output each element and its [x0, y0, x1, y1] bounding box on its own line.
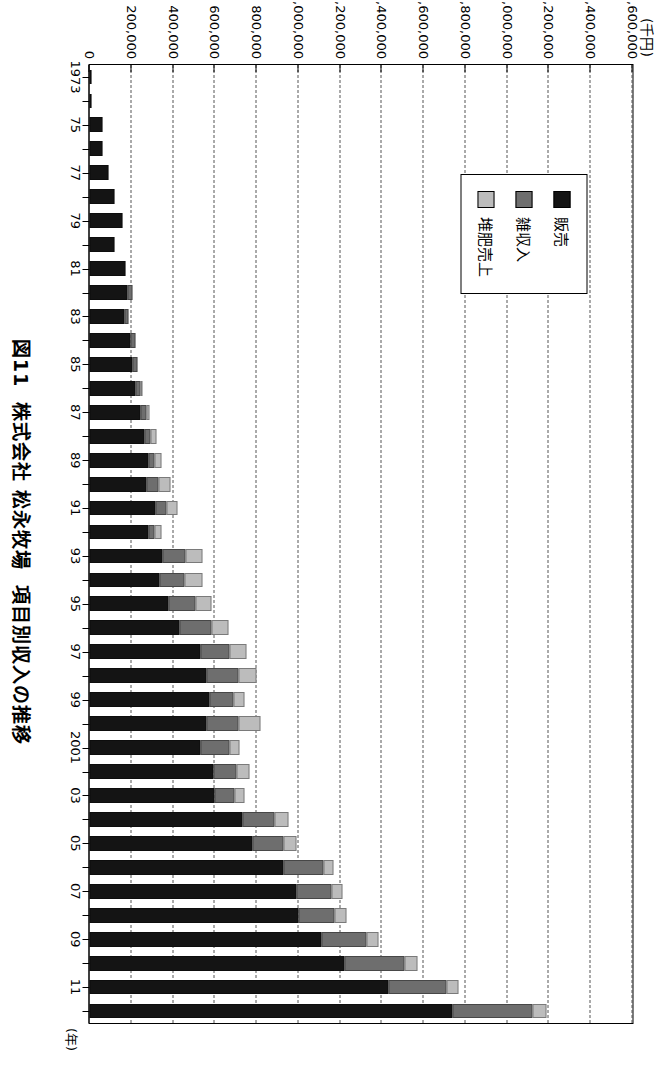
- bar-segment[interactable]: [154, 525, 161, 540]
- bar-segment[interactable]: [532, 1004, 547, 1019]
- bar-segment[interactable]: [234, 788, 243, 803]
- bar-segment[interactable]: [154, 453, 160, 468]
- bar-segment[interactable]: [148, 453, 155, 468]
- bar-segment[interactable]: [89, 237, 114, 252]
- legend-item[interactable]: 販売: [551, 191, 572, 277]
- bar-segment[interactable]: [89, 285, 127, 300]
- bar-group[interactable]: [89, 596, 632, 611]
- bar-segment[interactable]: [89, 716, 206, 731]
- bar-segment[interactable]: [242, 812, 274, 827]
- bar-group[interactable]: [89, 884, 632, 899]
- bar-segment[interactable]: [159, 573, 184, 588]
- bar-group[interactable]: [89, 716, 632, 731]
- bar-segment[interactable]: [206, 716, 238, 731]
- bar-segment[interactable]: [89, 141, 102, 156]
- bar-segment[interactable]: [238, 716, 260, 731]
- bar-segment[interactable]: [140, 381, 142, 396]
- bar-group[interactable]: [89, 573, 632, 588]
- bar-segment[interactable]: [184, 573, 201, 588]
- bar-segment[interactable]: [89, 908, 298, 923]
- bar-group[interactable]: [89, 788, 632, 803]
- bar-group[interactable]: [89, 381, 632, 396]
- bar-group[interactable]: [89, 70, 632, 85]
- bar-segment[interactable]: [89, 70, 91, 85]
- bar-segment[interactable]: [89, 932, 321, 947]
- bar-segment[interactable]: [200, 740, 229, 755]
- legend-item[interactable]: 雑収入: [513, 191, 534, 277]
- bar-segment[interactable]: [158, 477, 171, 492]
- bar-group[interactable]: [89, 740, 632, 755]
- bar-group[interactable]: [89, 980, 632, 995]
- bar-segment[interactable]: [206, 668, 238, 683]
- bar-group[interactable]: [89, 836, 632, 851]
- bar-group[interactable]: [89, 309, 632, 324]
- bar-segment[interactable]: [132, 357, 137, 372]
- bar-segment[interactable]: [124, 309, 128, 324]
- bar-group[interactable]: [89, 405, 632, 420]
- bar-group[interactable]: [89, 549, 632, 564]
- bar-segment[interactable]: [148, 525, 154, 540]
- bar-segment[interactable]: [214, 788, 234, 803]
- bar-segment[interactable]: [344, 956, 405, 971]
- bar-segment[interactable]: [89, 429, 144, 444]
- bar-segment[interactable]: [236, 764, 249, 779]
- bar-segment[interactable]: [89, 165, 108, 180]
- bar-segment[interactable]: [89, 788, 214, 803]
- bar-segment[interactable]: [130, 333, 135, 348]
- bar-segment[interactable]: [89, 812, 242, 827]
- bar-segment[interactable]: [404, 956, 417, 971]
- bar-segment[interactable]: [274, 812, 288, 827]
- bar-segment[interactable]: [140, 405, 146, 420]
- bar-group[interactable]: [89, 477, 632, 492]
- bar-group[interactable]: [89, 453, 632, 468]
- bar-group[interactable]: [89, 94, 632, 109]
- bar-segment[interactable]: [135, 381, 140, 396]
- bar-segment[interactable]: [238, 668, 255, 683]
- bar-segment[interactable]: [211, 620, 228, 635]
- bar-segment[interactable]: [89, 668, 206, 683]
- bar-segment[interactable]: [229, 644, 246, 659]
- bar-segment[interactable]: [213, 764, 236, 779]
- bar-segment[interactable]: [89, 956, 344, 971]
- bar-segment[interactable]: [89, 1004, 452, 1019]
- bar-group[interactable]: [89, 501, 632, 516]
- bar-segment[interactable]: [89, 477, 146, 492]
- bar-segment[interactable]: [150, 429, 156, 444]
- bar-segment[interactable]: [166, 501, 177, 516]
- bar-group[interactable]: [89, 620, 632, 635]
- bar-segment[interactable]: [195, 596, 212, 611]
- bar-segment[interactable]: [89, 620, 179, 635]
- bar-segment[interactable]: [89, 525, 148, 540]
- bar-segment[interactable]: [331, 884, 342, 899]
- bar-segment[interactable]: [89, 764, 213, 779]
- bar-segment[interactable]: [127, 285, 132, 300]
- bar-segment[interactable]: [155, 501, 166, 516]
- bar-segment[interactable]: [163, 549, 186, 564]
- bar-group[interactable]: [89, 860, 632, 875]
- bar-group[interactable]: [89, 117, 632, 132]
- bar-group[interactable]: [89, 908, 632, 923]
- bar-segment[interactable]: [89, 453, 148, 468]
- bar-segment[interactable]: [89, 644, 200, 659]
- bar-segment[interactable]: [452, 1004, 531, 1019]
- bar-segment[interactable]: [388, 980, 446, 995]
- bar-group[interactable]: [89, 812, 632, 827]
- bar-segment[interactable]: [89, 549, 163, 564]
- bar-segment[interactable]: [146, 405, 149, 420]
- bar-segment[interactable]: [229, 740, 239, 755]
- bar-group[interactable]: [89, 525, 632, 540]
- bar-segment[interactable]: [89, 189, 114, 204]
- bar-segment[interactable]: [89, 596, 168, 611]
- bar-segment[interactable]: [296, 884, 332, 899]
- bar-segment[interactable]: [168, 596, 195, 611]
- bar-segment[interactable]: [323, 860, 333, 875]
- bar-segment[interactable]: [89, 333, 130, 348]
- bar-segment[interactable]: [185, 549, 202, 564]
- bar-group[interactable]: [89, 956, 632, 971]
- bar-segment[interactable]: [89, 261, 125, 276]
- bar-segment[interactable]: [146, 477, 157, 492]
- bar-segment[interactable]: [89, 213, 122, 228]
- bar-segment[interactable]: [209, 692, 233, 707]
- bar-segment[interactable]: [366, 932, 379, 947]
- bar-group[interactable]: [89, 141, 632, 156]
